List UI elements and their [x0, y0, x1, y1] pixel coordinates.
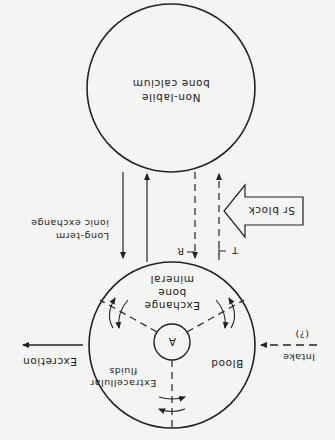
excretion-label: Excretion	[23, 356, 78, 368]
intake-label: Intake	[283, 352, 315, 363]
exchange-arrow-left-2	[229, 298, 235, 328]
bone-calcium-diagram: Non-labile bone calcium A Blood Extracel…	[0, 0, 335, 440]
extracellular-label-line1: Extracellular	[90, 378, 156, 389]
exchange-bone-label-line2: bone	[158, 287, 187, 299]
sr-block-label: Sr block	[248, 205, 295, 217]
exchange-bone-label-line3: mineral	[150, 274, 194, 286]
exchange-bone-label-line1: Exchange	[144, 300, 200, 312]
long-term-label-line1: Long-term	[56, 231, 109, 242]
label-r: R	[177, 246, 184, 257]
non-labile-label-line1: Non-labile	[141, 92, 200, 104]
exchange-arrow-right-2	[109, 298, 115, 328]
non-labile-label-line2: bone calcium	[132, 78, 209, 90]
exchange-pool-compartment: A Blood Extracellular fluids Exchange bo…	[89, 262, 255, 428]
blood-label: Blood	[211, 358, 244, 370]
intake-note: (?)	[295, 329, 309, 340]
long-term-label-line2: ionic exchange	[31, 218, 109, 229]
exchange-arrow-left-1	[216, 300, 225, 328]
extracellular-label-line2: fluids	[109, 366, 138, 377]
exchange-arrow-right-1	[119, 300, 128, 328]
central-pool-label: A	[168, 336, 176, 348]
label-t: T	[232, 245, 239, 256]
non-labile-compartment: Non-labile bone calcium	[87, 4, 255, 172]
